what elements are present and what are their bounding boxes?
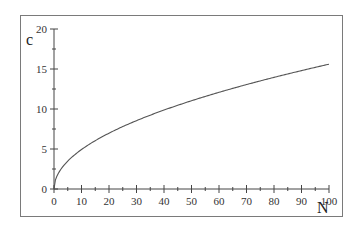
y-tick-label: 0 [42, 183, 48, 195]
axes [54, 29, 329, 189]
x-tick-label: 70 [241, 195, 253, 207]
x-tick-label: 80 [269, 195, 281, 207]
y-tick-label: 5 [42, 143, 48, 155]
y-tick-label: 20 [36, 23, 48, 35]
x-tick-label: 40 [159, 195, 171, 207]
y-tick-label: 10 [36, 103, 48, 115]
x-axis-title: N [317, 199, 329, 216]
data-curve [54, 64, 329, 189]
x-tick-label: 60 [214, 195, 226, 207]
x-tick-label: 50 [186, 195, 198, 207]
x-tick-label: 10 [76, 195, 88, 207]
x-tick-label: 20 [104, 195, 116, 207]
ticks [50, 29, 329, 193]
y-axis-title: c [26, 31, 33, 48]
line-chart: 010203040506070809010005101520 c N [0, 0, 360, 235]
x-tick-label: 90 [296, 195, 308, 207]
x-tick-label: 30 [131, 195, 143, 207]
x-tick-label: 0 [51, 195, 57, 207]
tick-labels: 010203040506070809010005101520 [36, 23, 338, 207]
y-tick-label: 15 [36, 63, 48, 75]
